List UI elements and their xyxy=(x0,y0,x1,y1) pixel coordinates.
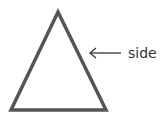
arrow-left-icon xyxy=(90,48,121,58)
diagram-canvas: side xyxy=(0,0,164,119)
side-label: side xyxy=(128,44,157,62)
triangle-shape xyxy=(11,12,106,110)
